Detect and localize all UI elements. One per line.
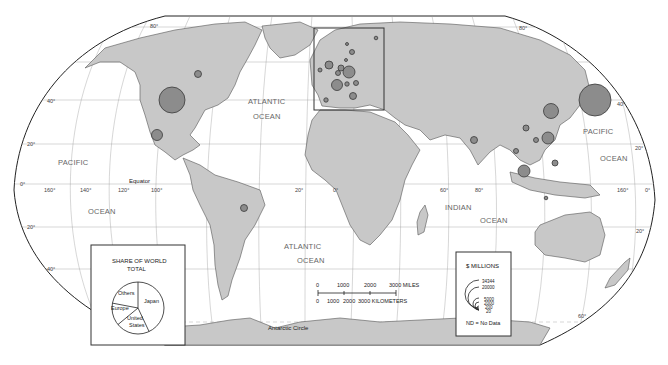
scale-miles-3000: 3000 MILES <box>389 282 420 288</box>
pie-label-others: Others <box>118 290 135 296</box>
bubble-philippines <box>552 160 558 166</box>
bubble-netherlands <box>338 65 344 71</box>
lon-20w-label: 20° <box>295 187 303 193</box>
size-legend-note: ND = No Data <box>466 320 501 326</box>
bubble-india <box>471 137 478 144</box>
bubble-sweden <box>350 50 355 55</box>
size-legend-value-20000: 20000 <box>482 285 495 290</box>
bubble-italy <box>350 93 357 100</box>
bubble-united-kingdom <box>325 61 333 69</box>
right-lat-0-label: 0° <box>645 187 650 193</box>
lon-100w-label: 100° <box>151 187 162 193</box>
right-lat-20n-label: 20° <box>635 145 643 151</box>
bubble-united-states <box>159 87 185 113</box>
lon-140w-label: 140° <box>80 187 91 193</box>
bubble-ireland <box>318 68 322 72</box>
bubble-spain <box>324 98 328 102</box>
bubble-austria <box>354 81 359 86</box>
ocean-label-atlantic-north-2: OCEAN <box>253 112 281 121</box>
bubble-indonesia <box>518 165 530 177</box>
bubble-germany <box>343 66 355 78</box>
pie-legend-title-2: TOTAL <box>127 266 146 272</box>
pie-label-europe: Europe <box>111 305 129 311</box>
scale-miles-0: 0 <box>316 282 319 288</box>
bubble-brazil <box>241 205 248 212</box>
size-legend-title: $ MILLIONS <box>466 263 499 269</box>
lon-0-label: 0° <box>333 187 338 193</box>
lon-60e-label: 60° <box>440 187 448 193</box>
ocean-label-indian-1: INDIAN <box>445 203 472 212</box>
scale-km-1000: 1000 <box>327 298 339 304</box>
ocean-label-atlantic-north-1: ATLANTIC <box>248 97 286 106</box>
size-legend-value-34344: 34344 <box>482 279 495 284</box>
pie-label-us-1: United <box>127 315 143 321</box>
bubble-thailand <box>514 149 519 154</box>
scale-km-3000: 3000 KILOMETERS <box>358 298 408 304</box>
size-legend-value-20: 20 <box>486 309 492 314</box>
bubble-china <box>523 125 529 131</box>
ocean-label-atlantic-south-2: OCEAN <box>297 256 325 265</box>
scale-miles-1000: 1000 <box>337 282 349 288</box>
lat-0-label: 0° <box>20 181 25 187</box>
world-map: ATLANTIC OCEAN PACIFIC OCEAN PACIFIC OCE… <box>0 0 668 365</box>
right-lat-60s-label: 60° <box>578 313 586 319</box>
share-of-world-legend: SHARE OF WORLD TOTAL Others Europe Japan… <box>91 245 185 345</box>
scale-km-0: 0 <box>316 298 319 304</box>
size-legend: $ MILLIONS 34344 20000 5000 2000 200 20 … <box>456 252 511 336</box>
bubble-belgium <box>336 71 341 76</box>
ocean-label-pacific-asia-1: PACIFIC <box>583 127 614 136</box>
equator-label: Equator <box>129 178 150 184</box>
scale-miles-2000: 2000 <box>364 282 376 288</box>
pie-label-us-2: States <box>129 322 145 328</box>
pie-label-japan: Japan <box>144 298 159 304</box>
bubble-denmark <box>345 59 348 62</box>
ocean-label-atlantic-south-1: ATLANTIC <box>284 242 322 251</box>
right-lat-40n-label: 40° <box>617 101 625 107</box>
ocean-label-pacific-asia-2: OCEAN <box>600 154 628 163</box>
antarctic-circle-label: Antarctic Circle <box>268 325 309 331</box>
right-lat-80-label: 80° <box>519 25 527 31</box>
bubble-norway <box>346 43 349 46</box>
ocean-label-pacific-west-ocean: OCEAN <box>88 207 116 216</box>
lat-80-label: 80° <box>150 23 158 29</box>
bubble-france <box>332 80 343 91</box>
lon-160e-label: 160° <box>617 187 628 193</box>
bubble-japan <box>579 84 611 116</box>
lon-120w-label: 120° <box>118 187 129 193</box>
bubble-singapore <box>544 196 548 200</box>
bubble-hong-kong <box>534 138 539 143</box>
pie-legend-title-1: SHARE OF WORLD <box>112 258 167 264</box>
bubble-finland <box>374 36 378 40</box>
ocean-label-pacific-east: PACIFIC <box>58 158 89 167</box>
bubble-taiwan <box>542 132 554 144</box>
lon-160w-label: 160° <box>44 187 55 193</box>
scale-km-2000: 2000 <box>343 298 355 304</box>
lat-20n-label: 20° <box>27 141 35 147</box>
right-lat-20s-label: 20° <box>636 228 644 234</box>
lon-80e-label: 80° <box>475 187 483 193</box>
ocean-label-indian-2: OCEAN <box>480 216 508 225</box>
lat-40n-label: 40° <box>47 98 55 104</box>
bubble-south-korea <box>544 104 559 119</box>
bubble-switzerland <box>345 82 349 86</box>
bubble-canada <box>195 71 202 78</box>
lat-20s-label: 20° <box>27 224 35 230</box>
bubble-mexico <box>152 130 163 141</box>
lat-40s-label: 40° <box>47 266 55 272</box>
